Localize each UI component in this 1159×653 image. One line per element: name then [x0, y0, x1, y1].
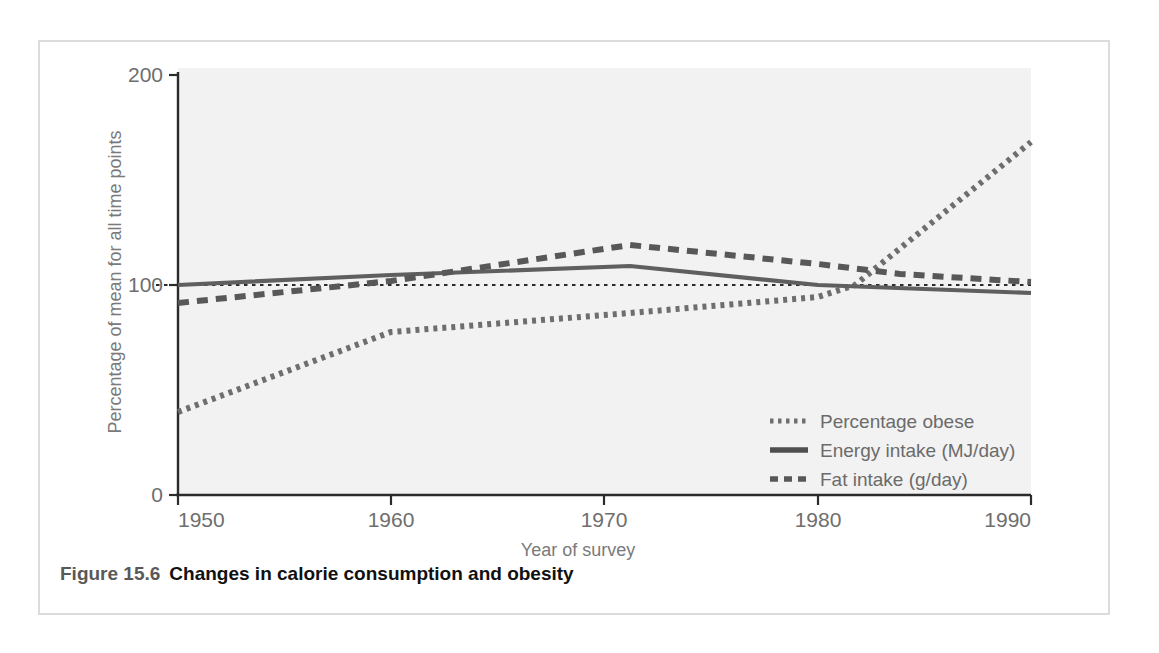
y-axis-title: Percentage of mean for all time points	[105, 130, 125, 433]
legend-label-percentage-obese: Percentage obese	[820, 411, 974, 432]
y-tick-label-200: 200	[128, 63, 163, 86]
legend-label-fat-intake: Fat intake (g/day)	[820, 469, 968, 490]
line-chart: 200 100 0 1950 1960 1970 1980 1990 Year …	[0, 0, 1159, 653]
figure-caption-text: Changes in calorie consumption and obesi…	[169, 563, 573, 584]
figure-container: 200 100 0 1950 1960 1970 1980 1990 Year …	[0, 0, 1159, 653]
x-tick-label-1950: 1950	[178, 508, 225, 531]
x-tick-label-1980: 1980	[795, 508, 842, 531]
x-tick-label-1990: 1990	[984, 508, 1031, 531]
figure-caption: Figure 15.6Changes in calorie consumptio…	[60, 563, 574, 585]
x-axis-title: Year of survey	[521, 540, 635, 560]
x-tick-label-1970: 1970	[581, 508, 628, 531]
x-tick-label-1960: 1960	[368, 508, 415, 531]
figure-number: Figure 15.6	[60, 563, 160, 584]
y-tick-label-0: 0	[151, 483, 163, 506]
legend-label-energy-intake: Energy intake (MJ/day)	[820, 440, 1015, 461]
